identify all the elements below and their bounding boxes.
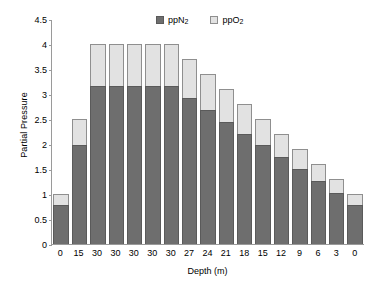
bar-group bbox=[236, 20, 254, 244]
stacked-bar[interactable] bbox=[311, 164, 326, 244]
stacked-bar[interactable] bbox=[329, 179, 344, 244]
partial-pressure-stacked-bar-chart: Partial Pressure ppN2 ppO2 4.543.532.521… bbox=[0, 0, 374, 293]
x-axis-tick-label: 30 bbox=[143, 248, 161, 258]
bar-segment-ppn2[interactable] bbox=[311, 181, 326, 244]
y-axis-tick-mark bbox=[49, 245, 52, 246]
bar-segment-ppo2[interactable] bbox=[347, 194, 362, 205]
stacked-bar[interactable] bbox=[219, 89, 234, 244]
stacked-bar[interactable] bbox=[109, 44, 124, 244]
x-axis-ticks: 01530303030302724211815129630 bbox=[51, 248, 364, 258]
bar-segment-ppo2[interactable] bbox=[145, 44, 160, 86]
plot-area: 4.543.532.521.510.50 bbox=[51, 20, 364, 245]
bar-segment-ppo2[interactable] bbox=[329, 179, 344, 193]
stacked-bar[interactable] bbox=[72, 119, 87, 244]
bar-segment-ppo2[interactable] bbox=[109, 44, 124, 86]
stacked-bar[interactable] bbox=[292, 149, 307, 244]
bar-group bbox=[291, 20, 309, 244]
x-axis-tick-label: 0 bbox=[346, 248, 364, 258]
bar-segment-ppo2[interactable] bbox=[274, 134, 289, 157]
stacked-bar[interactable] bbox=[145, 44, 160, 244]
bar-group bbox=[52, 20, 70, 244]
x-axis-tick-label: 21 bbox=[217, 248, 235, 258]
bar-segment-ppn2[interactable] bbox=[347, 205, 362, 245]
bar-segment-ppn2[interactable] bbox=[72, 145, 87, 244]
bar-segment-ppo2[interactable] bbox=[237, 104, 252, 134]
bar-segment-ppo2[interactable] bbox=[311, 164, 326, 181]
x-axis-tick-label: 12 bbox=[272, 248, 290, 258]
stacked-bar[interactable] bbox=[347, 194, 362, 244]
bar-segment-ppn2[interactable] bbox=[53, 205, 68, 245]
x-axis-tick-label: 9 bbox=[290, 248, 308, 258]
bar-segment-ppo2[interactable] bbox=[292, 149, 307, 169]
x-axis-tick-label: 30 bbox=[106, 248, 124, 258]
x-axis-tick-label: 6 bbox=[309, 248, 327, 258]
stacked-bar[interactable] bbox=[164, 44, 179, 244]
bar-segment-ppn2[interactable] bbox=[109, 86, 124, 244]
bar-segment-ppo2[interactable] bbox=[200, 74, 215, 110]
x-axis-tick-label: 15 bbox=[69, 248, 87, 258]
bar-segment-ppo2[interactable] bbox=[182, 59, 197, 98]
bar-segment-ppn2[interactable] bbox=[182, 98, 197, 244]
x-axis-tick-label: 27 bbox=[180, 248, 198, 258]
bar-segment-ppn2[interactable] bbox=[127, 86, 142, 244]
stacked-bar[interactable] bbox=[90, 44, 105, 244]
bar-segment-ppn2[interactable] bbox=[237, 134, 252, 245]
bar-segment-ppo2[interactable] bbox=[90, 44, 105, 86]
bar-segment-ppn2[interactable] bbox=[219, 122, 234, 245]
x-axis-tick-label: 24 bbox=[198, 248, 216, 258]
bar-segment-ppo2[interactable] bbox=[72, 119, 87, 145]
x-axis-tick-label: 3 bbox=[327, 248, 345, 258]
bar-series-container bbox=[52, 20, 364, 244]
bar-group bbox=[125, 20, 143, 244]
bar-group bbox=[144, 20, 162, 244]
stacked-bar[interactable] bbox=[53, 194, 68, 244]
bar-segment-ppo2[interactable] bbox=[255, 119, 270, 145]
bar-segment-ppn2[interactable] bbox=[255, 145, 270, 244]
x-axis-tick-label: 18 bbox=[235, 248, 253, 258]
bar-group bbox=[272, 20, 290, 244]
bar-segment-ppo2[interactable] bbox=[127, 44, 142, 86]
stacked-bar[interactable] bbox=[127, 44, 142, 244]
bar-segment-ppn2[interactable] bbox=[145, 86, 160, 244]
stacked-bar[interactable] bbox=[182, 59, 197, 244]
x-axis-tick-label: 30 bbox=[125, 248, 143, 258]
bar-group bbox=[107, 20, 125, 244]
x-axis-tick-label: 30 bbox=[161, 248, 179, 258]
bar-group bbox=[254, 20, 272, 244]
bar-group bbox=[70, 20, 88, 244]
bar-segment-ppn2[interactable] bbox=[292, 169, 307, 244]
bar-segment-ppo2[interactable] bbox=[164, 44, 179, 86]
bar-group bbox=[309, 20, 327, 244]
bar-segment-ppn2[interactable] bbox=[90, 86, 105, 244]
bar-group bbox=[217, 20, 235, 244]
x-axis-title: Depth (m) bbox=[51, 266, 364, 276]
bar-group bbox=[181, 20, 199, 244]
bar-group bbox=[327, 20, 345, 244]
bar-group bbox=[346, 20, 364, 244]
bar-segment-ppn2[interactable] bbox=[200, 110, 215, 245]
y-axis-title: Partial Pressure bbox=[19, 55, 29, 195]
bar-segment-ppn2[interactable] bbox=[274, 157, 289, 244]
bar-group bbox=[89, 20, 107, 244]
bar-segment-ppo2[interactable] bbox=[219, 89, 234, 122]
stacked-bar[interactable] bbox=[200, 74, 215, 244]
bar-segment-ppn2[interactable] bbox=[164, 86, 179, 244]
stacked-bar[interactable] bbox=[255, 119, 270, 244]
bar-group bbox=[199, 20, 217, 244]
bar-group bbox=[162, 20, 180, 244]
bar-segment-ppn2[interactable] bbox=[329, 193, 344, 245]
x-axis-tick-label: 0 bbox=[51, 248, 69, 258]
stacked-bar[interactable] bbox=[274, 134, 289, 244]
x-axis-tick-label: 15 bbox=[253, 248, 271, 258]
bar-segment-ppo2[interactable] bbox=[53, 194, 68, 205]
stacked-bar[interactable] bbox=[237, 104, 252, 244]
x-axis-tick-label: 30 bbox=[88, 248, 106, 258]
